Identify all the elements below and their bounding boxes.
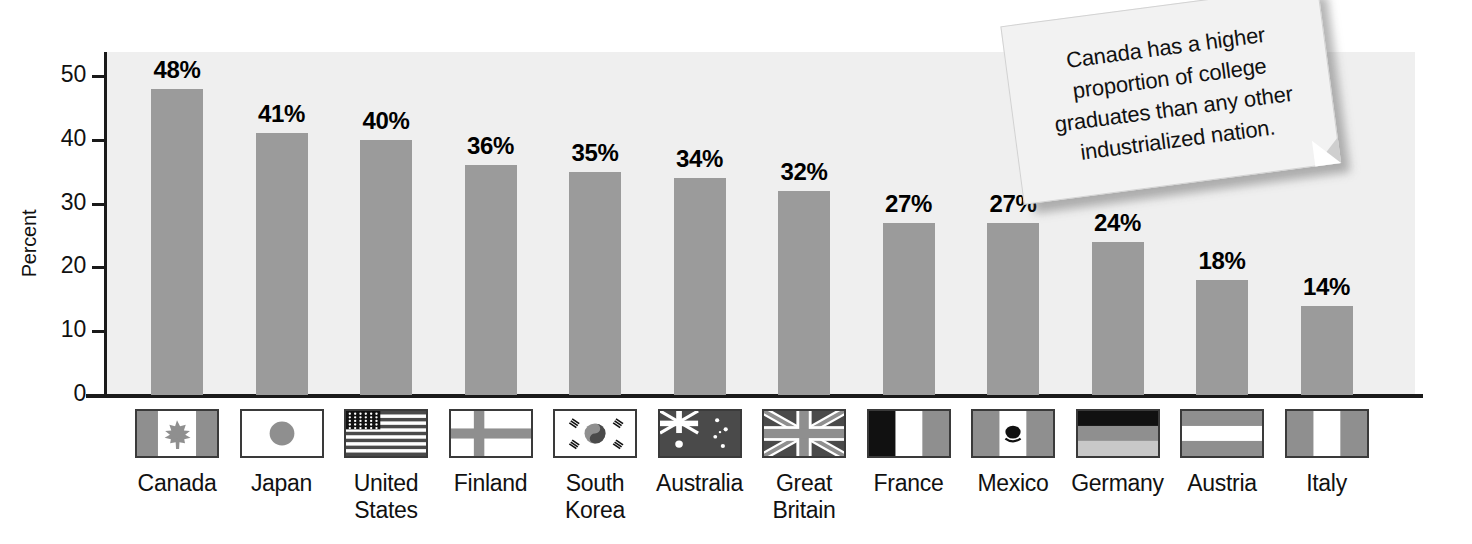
bar xyxy=(569,172,621,395)
flag-austria-icon xyxy=(1180,409,1264,458)
chart-canvas: 01020304050 Percent 48%41%40%36%35%34%32… xyxy=(0,0,1472,544)
bar-value-label: 18% xyxy=(1162,247,1282,275)
bar-value-label: 34% xyxy=(640,145,760,173)
flag-great-britain-icon-art xyxy=(764,411,844,456)
flag-australia-icon-art xyxy=(660,411,740,456)
bar-value-label: 48% xyxy=(117,56,237,84)
y-tick-mark xyxy=(92,139,105,142)
bar-value-label: 35% xyxy=(535,139,655,167)
flag-italy-icon xyxy=(1285,409,1369,458)
flag-great-britain-icon xyxy=(762,409,846,458)
y-tick-label: 50 xyxy=(30,61,86,88)
flag-united-states-icon-art xyxy=(346,411,426,456)
flag-france-icon xyxy=(867,409,951,458)
category-label-line: Italy xyxy=(1252,470,1402,497)
y-tick-mark xyxy=(92,203,105,206)
flag-south-korea-icon xyxy=(553,409,637,458)
flag-japan-icon-art xyxy=(242,411,322,456)
category-label-line: Korea xyxy=(520,497,670,524)
callout-text: Canada has a higher proportion of colleg… xyxy=(1019,13,1325,174)
bar-value-label: 40% xyxy=(326,107,446,135)
flag-austria-icon-art xyxy=(1182,411,1262,456)
y-tick-mark xyxy=(92,330,105,333)
bar xyxy=(151,89,203,395)
bar-value-label: 14% xyxy=(1267,273,1387,301)
callout-curl-highlight-icon xyxy=(1312,137,1341,166)
flag-canada-icon-art xyxy=(137,411,217,456)
y-tick-label: 0 xyxy=(30,380,86,407)
flag-finland-icon-art xyxy=(451,411,531,456)
bar-value-label: 32% xyxy=(744,158,864,186)
flag-japan-icon xyxy=(240,409,324,458)
y-tick-mark xyxy=(92,75,105,78)
bar xyxy=(465,165,517,395)
y-tick-mark xyxy=(92,394,105,397)
category-label-line: Britain xyxy=(729,497,879,524)
flag-italy-icon-art xyxy=(1287,411,1367,456)
flag-mexico-icon-art xyxy=(973,411,1053,456)
category-label: Italy xyxy=(1252,470,1402,497)
flag-south-korea-icon-art xyxy=(555,411,635,456)
flag-germany-icon xyxy=(1076,409,1160,458)
category-label-line: States xyxy=(311,497,461,524)
bar xyxy=(1092,242,1144,395)
bar xyxy=(674,178,726,395)
bar-value-label: 27% xyxy=(849,190,969,218)
bar xyxy=(883,223,935,395)
y-tick-mark xyxy=(92,266,105,269)
flag-australia-icon xyxy=(658,409,742,458)
flag-france-icon-art xyxy=(869,411,949,456)
flag-germany-icon-art xyxy=(1078,411,1158,456)
bar xyxy=(1196,280,1248,395)
bar xyxy=(1301,306,1353,395)
bar xyxy=(360,140,412,395)
y-tick-label: 10 xyxy=(30,316,86,343)
bar xyxy=(256,133,308,395)
bar-value-label: 41% xyxy=(222,100,342,128)
y-axis-title: Percent xyxy=(18,189,41,299)
y-tick-label: 40 xyxy=(30,125,86,152)
flag-canada-icon xyxy=(135,409,219,458)
bar xyxy=(778,191,830,395)
y-axis-line xyxy=(104,52,107,396)
flag-finland-icon xyxy=(449,409,533,458)
bar-value-label: 36% xyxy=(431,132,551,160)
bar xyxy=(987,223,1039,395)
flag-mexico-icon xyxy=(971,409,1055,458)
flag-united-states-icon xyxy=(344,409,428,458)
